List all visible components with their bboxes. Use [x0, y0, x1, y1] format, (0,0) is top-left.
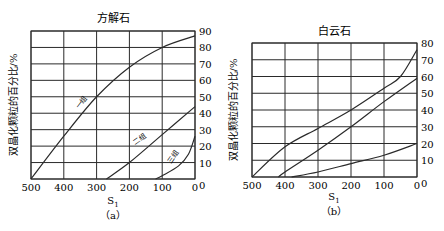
chart-title: 方解石: [97, 11, 130, 25]
curve-label: 二组: [131, 132, 148, 147]
x-tick-label: 400: [275, 180, 294, 191]
y-tick-label: 20: [199, 141, 212, 152]
x-tick-label: 300: [308, 180, 327, 191]
y-axis-label: 双晶化颗粒的百分比/%: [7, 54, 19, 157]
y-tick-label: 40: [199, 108, 212, 119]
x-tick-label: 400: [54, 182, 73, 193]
y-tick-label: 30: [421, 122, 434, 133]
x-tick-label: 500: [242, 180, 261, 191]
y-tick-label: 70: [421, 55, 434, 66]
y-tick-label: 40: [421, 105, 434, 116]
y-tick-label: 10: [199, 158, 212, 169]
x-tick-label: 0: [192, 182, 198, 193]
y-tick-label: 50: [199, 92, 212, 103]
x-tick-label: 100: [153, 182, 172, 193]
x-axis-ticks: 5004003002001000: [242, 180, 420, 191]
y-tick-label: 80: [199, 42, 212, 53]
y-axis-label: 双晶化颗粒的百分比/%: [227, 59, 239, 162]
y-axis-ticks: 01020304050607080: [421, 38, 434, 189]
y-tick-label: 0: [421, 178, 427, 189]
chart-title: 白云石: [318, 24, 351, 38]
x-axis-label: S1: [328, 191, 339, 205]
y-tick-label: 70: [199, 59, 212, 70]
x-tick-label: 300: [87, 182, 106, 193]
x-tick-label: 200: [120, 182, 139, 193]
data-series: 一组二组三组: [31, 36, 195, 179]
figure: 方解石 5004003002001000 0102030405060708090…: [0, 0, 444, 231]
y-tick-label: 0: [199, 180, 205, 191]
chart-panel-dolomite: 白云石 5004003002001000 01020304050607080 双…: [227, 24, 434, 217]
y-tick-label: 30: [199, 125, 212, 136]
x-tick-label: 100: [374, 180, 393, 191]
x-tick-label: 200: [341, 180, 360, 191]
x-tick-label: 0: [414, 180, 420, 191]
series-line: [252, 50, 417, 177]
y-tick-label: 90: [199, 26, 212, 37]
y-tick-label: 80: [421, 38, 434, 49]
x-axis-ticks: 5004003002001000: [21, 182, 198, 193]
chart-panel-calcite: 方解石 5004003002001000 0102030405060708090…: [7, 11, 212, 221]
y-axis-ticks: 0102030405060708090: [199, 26, 212, 191]
y-tick-label: 60: [199, 75, 212, 86]
x-axis-label: S1: [107, 195, 118, 209]
y-tick-label: 20: [421, 139, 434, 150]
x-tick-label: 500: [21, 182, 40, 193]
panel-caption: （b）: [321, 206, 347, 217]
y-tick-label: 60: [421, 72, 434, 83]
grid: [252, 43, 417, 177]
data-series: [252, 50, 417, 177]
y-tick-label: 50: [421, 88, 434, 99]
series-line: [106, 107, 195, 179]
panel-caption: （a）: [100, 210, 126, 221]
y-tick-label: 10: [421, 155, 434, 166]
